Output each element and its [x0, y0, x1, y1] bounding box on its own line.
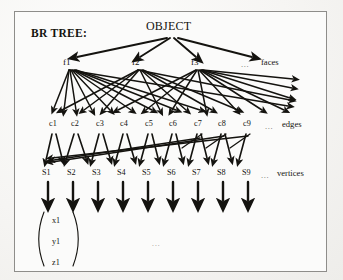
node-s6: S6: [167, 169, 176, 177]
node-s1: S1: [42, 169, 51, 177]
node-c4: c4: [120, 120, 128, 128]
node-s5: S5: [142, 169, 151, 177]
figure-canvas: BR TREE: OBJECT f1 f2 f3 ... faces c1 c2…: [0, 0, 343, 280]
node-s2: S2: [67, 169, 76, 177]
figure-title: BR TREE:: [31, 28, 87, 40]
node-s3: S3: [92, 169, 101, 177]
vector-component-x1: x1: [52, 217, 60, 225]
node-c9: c9: [243, 120, 251, 128]
vector-row-ellipsis: ...: [152, 240, 161, 248]
figure-frame: [14, 11, 327, 272]
faces-ellipsis: ...: [241, 60, 249, 69]
node-c8: c8: [218, 120, 226, 128]
row-label-edges: edges: [282, 120, 302, 129]
node-s4: S4: [117, 169, 126, 177]
node-f3: f3: [191, 58, 199, 67]
vector-component-z1: z1: [52, 259, 60, 267]
node-c2: c2: [71, 120, 79, 128]
row-label-faces: faces: [261, 58, 279, 67]
node-c7: c7: [194, 120, 202, 128]
node-object: OBJECT: [146, 20, 191, 32]
node-s9: S9: [242, 169, 251, 177]
node-s7: S7: [192, 169, 201, 177]
edges-ellipsis: ...: [265, 122, 273, 131]
vector-component-y1: y1: [52, 238, 60, 246]
vertices-ellipsis: ...: [261, 171, 269, 180]
row-label-vertices: vertices: [277, 169, 304, 178]
node-c1: c1: [49, 120, 57, 128]
node-f1: f1: [63, 58, 71, 67]
node-c3: c3: [96, 120, 104, 128]
node-c5: c5: [145, 120, 153, 128]
node-s8: S8: [217, 169, 226, 177]
node-f2: f2: [132, 58, 140, 67]
node-c6: c6: [169, 120, 177, 128]
